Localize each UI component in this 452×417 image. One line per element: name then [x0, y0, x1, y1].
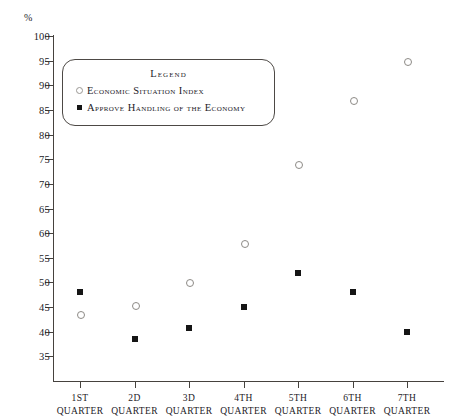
- data-point: [404, 329, 410, 335]
- data-point: [350, 289, 356, 295]
- x-axis-tick-label: 3DQUARTER: [166, 392, 213, 417]
- data-point: [241, 240, 249, 248]
- data-point: [404, 58, 412, 66]
- y-axis-tick-label: 65: [8, 203, 53, 214]
- x-axis-tick-label: 5THQUARTER: [275, 392, 322, 417]
- legend-entry-label: Approve Handling of the Economy: [87, 102, 245, 113]
- x-axis-tick-label: 7THQUARTER: [384, 392, 431, 417]
- x-axis-tick-label: 1STQUARTER: [57, 392, 104, 417]
- data-point: [241, 304, 247, 310]
- open-circle-icon: [73, 87, 85, 94]
- legend-title: Legend: [63, 68, 274, 79]
- y-axis-unit-label: %: [24, 12, 33, 23]
- data-point: [77, 289, 83, 295]
- x-axis-tick-label: 2DQUARTER: [111, 392, 158, 417]
- filled-square-icon: [73, 105, 85, 110]
- y-axis-line: [53, 35, 54, 382]
- y-axis-tick-label: 40: [8, 326, 53, 337]
- y-axis-tick-label: 50: [8, 277, 53, 288]
- legend-entry-label: Economic Situation Index: [87, 85, 204, 96]
- x-axis-tick-label: 6THQUARTER: [329, 392, 376, 417]
- x-axis-tick: [244, 381, 245, 388]
- y-axis-tick-label: 55: [8, 252, 53, 263]
- x-axis-tick: [353, 381, 354, 388]
- data-point: [295, 270, 301, 276]
- y-axis-tick-label: 75: [8, 154, 53, 165]
- x-axis-tick: [298, 381, 299, 388]
- data-point: [186, 325, 192, 331]
- data-point: [295, 161, 303, 169]
- data-point: [77, 311, 85, 319]
- x-axis-tick-label: 4THQUARTER: [220, 392, 267, 417]
- x-axis-tick: [189, 381, 190, 388]
- y-axis-tick-label: 100: [8, 31, 53, 42]
- y-axis-tick-label: 90: [8, 80, 53, 91]
- y-axis-tick-label: 35: [8, 351, 53, 362]
- y-axis-tick-label: 45: [8, 302, 53, 313]
- y-axis-tick-label: 60: [8, 228, 53, 239]
- x-axis-tick: [135, 381, 136, 388]
- x-axis-tick: [407, 381, 408, 388]
- y-axis-tick-label: 85: [8, 104, 53, 115]
- data-point: [350, 97, 358, 105]
- data-point: [132, 302, 140, 310]
- x-axis-tick: [80, 381, 81, 388]
- y-axis-tick-label: 95: [8, 55, 53, 66]
- data-point: [132, 336, 138, 342]
- legend-entry-approve-handling-of-the-economy: Approve Handling of the Economy: [73, 102, 274, 113]
- x-axis-line: [53, 381, 444, 382]
- data-point: [186, 279, 194, 287]
- legend: Legend Economic Situation Index Approve …: [62, 59, 275, 126]
- y-axis-tick-label: 80: [8, 129, 53, 140]
- legend-entry-economic-situation-index: Economic Situation Index: [73, 85, 274, 96]
- y-axis-tick-label: 70: [8, 178, 53, 189]
